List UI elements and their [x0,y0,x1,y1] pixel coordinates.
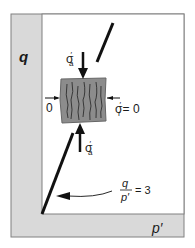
left-stress-label: 0 [46,101,53,115]
top-load-label: σ′a [66,50,74,68]
ratio-numerator: q [122,177,129,189]
ratio-value: = 3 [135,184,151,196]
y-axis-label: q [19,48,28,65]
stress-path-diagram: q p′ σ′a σ′a 0 σ′r= 0 [0,0,195,248]
soil-sample [60,78,106,123]
ratio-denominator: p′ [120,191,130,203]
right-stress-label: σ′r= 0 [115,100,140,118]
bottom-load-label: σ′a [85,139,93,157]
x-axis-label: p′ [151,220,164,236]
